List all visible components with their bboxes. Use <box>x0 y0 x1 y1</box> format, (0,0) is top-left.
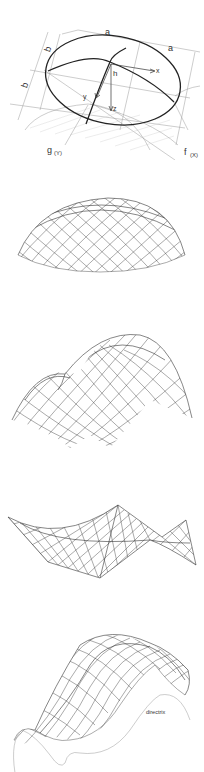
f-leader <box>174 102 188 130</box>
vault-mesh <box>0 330 204 450</box>
label-h: h <box>113 69 117 78</box>
figure-elliptic-dome-mesh <box>0 190 204 290</box>
label-f-sub: (X) <box>190 152 198 158</box>
label-f: f <box>184 147 187 157</box>
figure-twin-vault-mesh <box>0 330 204 450</box>
label-a-right: a <box>168 43 173 53</box>
hypar-grid <box>8 503 196 578</box>
ellipse-outline <box>38 25 187 135</box>
label-b-upper: b <box>42 45 53 53</box>
label-a-left: a <box>105 27 110 37</box>
translational-mesh: directrix <box>0 625 204 772</box>
figure-translational-surface-mesh: directrix <box>0 625 204 772</box>
figure-elliptic-paraboloid-definition: a a b b h x y z g (Y) f (X) <box>0 0 204 160</box>
surface-outline-bottom <box>14 665 185 741</box>
definition-diagram: a a b b h x y z g (Y) f (X) <box>0 0 204 160</box>
label-g-sub: (Y) <box>54 150 62 156</box>
g-leader <box>65 105 88 145</box>
dome-mesh <box>0 190 204 290</box>
label-y: y <box>83 93 87 101</box>
figure-hyperbolic-paraboloid-mesh <box>0 495 204 580</box>
dome-outline-bottom <box>18 255 185 272</box>
dome-grid <box>0 190 204 288</box>
label-g: g <box>47 145 52 155</box>
base-hatch <box>30 108 174 150</box>
curve-g <box>25 104 150 150</box>
vault-outline <box>12 334 192 420</box>
hypar-mesh <box>0 495 204 580</box>
label-x: x <box>156 67 160 74</box>
axes <box>95 64 155 111</box>
translational-grid <box>0 630 204 759</box>
label-z: z <box>113 105 117 112</box>
dome-outline-top <box>18 198 185 255</box>
label-directrix: directrix <box>146 709 166 715</box>
label-b-lower: b <box>19 81 30 89</box>
